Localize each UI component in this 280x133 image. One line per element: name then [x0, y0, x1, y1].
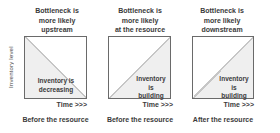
- plot-upstream-time-axis-label: Time >>>: [24, 101, 87, 108]
- plot-at-resource: Inventory is building: [108, 36, 171, 99]
- plot-upstream-inner-label: Inventory is decreasing: [31, 77, 81, 94]
- panel-downstream-title: Bottleneck is more likely downstream: [180, 6, 264, 35]
- plot-at-resource-time-axis-label: Time >>>: [108, 101, 173, 108]
- plot-upstream-caption: Before the resource: [9, 116, 102, 123]
- inventory-level-axis-label: Inventory level: [8, 36, 20, 99]
- plot-downstream-inner-label: Inventory is building: [216, 75, 252, 101]
- plot-at-resource-inner-label: Inventory is building: [133, 75, 169, 101]
- panel-upstream-title: Bottleneck is more likely upstream: [14, 6, 100, 35]
- plot-downstream-caption: After the resource: [177, 116, 269, 123]
- plot-downstream: Inventory is building: [192, 36, 254, 99]
- panel-at-resource-title: Bottleneck is more likely at the resourc…: [98, 6, 182, 35]
- plot-at-resource-caption: Before the resource: [94, 116, 186, 123]
- plot-downstream-time-axis-label: Time >>>: [192, 101, 254, 108]
- plot-upstream: Inventory is decreasing: [24, 36, 87, 99]
- bottleneck-diagram: Bottleneck is more likely upstream Inven…: [0, 0, 280, 133]
